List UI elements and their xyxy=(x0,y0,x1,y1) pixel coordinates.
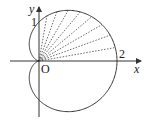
x-axis-label: x xyxy=(133,62,140,76)
tick-label-2: 2 xyxy=(119,47,125,61)
dotted-ray-40 xyxy=(39,17,92,61)
dotted-ray-80 xyxy=(39,16,47,61)
dotted-ray-30 xyxy=(39,25,102,61)
cardioid-diagram: y x O 1 2 xyxy=(0,0,151,126)
tick-label-1: 1 xyxy=(31,15,37,29)
dotted-rays xyxy=(39,10,115,61)
dotted-ray-20 xyxy=(39,35,110,61)
y-axis-label: y xyxy=(28,2,35,16)
origin-label: O xyxy=(41,62,50,76)
